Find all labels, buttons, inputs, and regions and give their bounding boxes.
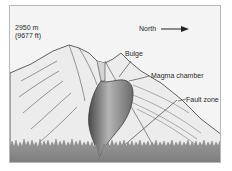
elevation-feet-label: (9677 ft): [15, 32, 41, 40]
north-label: North: [139, 25, 156, 33]
bulge-label: Bulge: [125, 50, 143, 58]
diagram-frame: 2950 m (9677 ft) North Bulge Magma chamb…: [9, 5, 221, 163]
fault-zone-label: Fault zone: [186, 96, 219, 104]
elevation-meters-label: 2950 m: [15, 24, 38, 32]
magma-chamber-label: Magma chamber: [151, 72, 204, 80]
volcano-cross-section: [10, 6, 221, 163]
right-arrow-icon: [161, 26, 189, 32]
